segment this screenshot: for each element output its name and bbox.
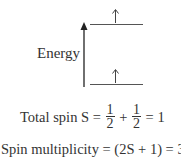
axis-arrowhead-icon [81,22,88,30]
up-spin-arrow-icon [113,70,119,84]
up-spin-arrow-icon [113,10,119,24]
fraction-half: 1 2 [106,103,115,130]
energy-axis-label: Energy [37,44,80,62]
energy-level-diagram [0,0,181,100]
total-spin-result: = 1 [146,109,165,125]
total-spin-equation: Total spin S = 1 2 + 1 2 = 1 [20,103,165,130]
plus-sign: + [119,109,127,125]
spin-multiplicity-equation: Spin multiplicity = (2S + 1) = 3 [1,141,181,157]
fraction-half: 1 2 [132,103,141,130]
total-spin-lhs: Total spin S = [20,109,101,125]
